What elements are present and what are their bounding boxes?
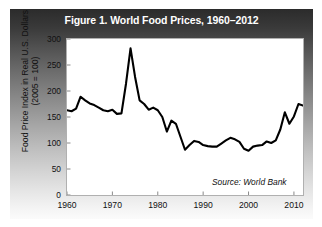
y-tick-label-100: 100 bbox=[31, 138, 61, 148]
y-tick-label-50: 50 bbox=[31, 164, 61, 174]
x-tick-label-2000: 2000 bbox=[229, 200, 269, 210]
x-tick-label-2010: 2010 bbox=[274, 200, 314, 210]
food-price-line-chart bbox=[67, 39, 303, 195]
figure-screenshot: Figure 1. World Food Prices, 1960–2012 F… bbox=[0, 0, 322, 227]
y-tick-label-150: 150 bbox=[31, 112, 61, 122]
y-tick-label-0: 0 bbox=[31, 190, 61, 200]
source-annotation: Source: World Bank bbox=[212, 177, 286, 187]
x-tick-label-1960: 1960 bbox=[47, 200, 87, 210]
axis-tick-marks bbox=[67, 39, 294, 195]
price-index-line bbox=[67, 48, 303, 150]
plot-area bbox=[66, 38, 304, 196]
x-tick-label-1980: 1980 bbox=[138, 200, 178, 210]
y-tick-label-200: 200 bbox=[31, 86, 61, 96]
x-tick-label-1970: 1970 bbox=[92, 200, 132, 210]
y-tick-label-300: 300 bbox=[31, 34, 61, 44]
x-tick-label-1990: 1990 bbox=[183, 200, 223, 210]
y-tick-label-250: 250 bbox=[31, 60, 61, 70]
